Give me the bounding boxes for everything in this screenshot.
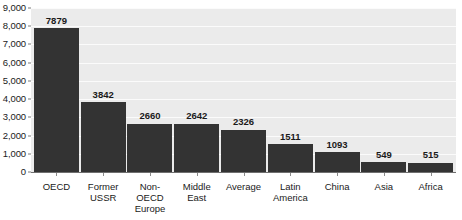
bar-slot: 1511 [267, 8, 314, 172]
y-axis-tick-label: 8,000 [3, 21, 26, 31]
x-axis-tick-label: Average [220, 181, 267, 192]
bar[interactable] [408, 163, 453, 172]
x-axis-category: Average [220, 173, 267, 220]
bar-slot: 7879 [33, 8, 80, 172]
x-axis-tick-mark [150, 173, 151, 176]
bar-slot: 549 [360, 8, 407, 172]
bar-value-label: 515 [423, 150, 439, 160]
bar-slot: 1093 [314, 8, 361, 172]
x-axis-tick-mark [197, 173, 198, 176]
x-axis-tick-mark [103, 173, 104, 176]
y-axis-tick-label: 6,000 [3, 58, 26, 68]
x-axis-tick-label: Non-OECD Europe [127, 181, 174, 214]
y-axis-tick-label: 4,000 [3, 94, 26, 104]
y-axis-tick-label: 0 [21, 167, 26, 177]
bar-value-label: 2326 [233, 117, 254, 127]
y-axis-tick-label: 7,000 [3, 40, 26, 50]
x-axis-tick-label: Former USSR [80, 181, 127, 203]
bar[interactable] [221, 130, 266, 172]
bar[interactable] [81, 102, 126, 172]
x-axis-tick-mark [56, 173, 57, 176]
x-axis-tick-mark [244, 173, 245, 176]
bar[interactable] [127, 124, 172, 172]
bar[interactable] [361, 162, 406, 172]
x-axis-category: Middle East [173, 173, 220, 220]
x-axis-tick-label: China [314, 181, 361, 192]
x-axis: OECDFormer USSRNon-OECD EuropeMiddle Eas… [31, 173, 456, 220]
x-axis-category: Former USSR [80, 173, 127, 220]
bar-slot: 515 [407, 8, 454, 172]
bar[interactable] [34, 28, 79, 172]
bar[interactable] [268, 144, 313, 172]
bar-value-label: 2642 [186, 111, 207, 121]
bar[interactable] [315, 152, 360, 172]
bar-slot: 2326 [220, 8, 267, 172]
y-axis-tick-label: 2,000 [3, 131, 26, 141]
bar-slot: 3842 [80, 8, 127, 172]
x-axis-category: Latin America [267, 173, 314, 220]
x-axis-category: Africa [407, 173, 454, 220]
y-axis-tick-label: 5,000 [3, 76, 26, 86]
bar-value-label: 549 [376, 150, 392, 160]
y-axis-tick-label: 1,000 [3, 149, 26, 159]
x-axis-tick-label: Asia [360, 181, 407, 192]
x-axis-tick-mark [290, 173, 291, 176]
bar-slot: 2642 [173, 8, 220, 172]
bars-layer: 7879384226602642232615111093549515 [31, 8, 456, 172]
x-axis-tick-mark [431, 173, 432, 176]
bar[interactable] [174, 124, 219, 172]
x-axis-tick-label: Latin America [267, 181, 314, 203]
bar-value-label: 1093 [327, 140, 348, 150]
x-axis-tick-label: Africa [407, 181, 454, 192]
x-axis-category: OECD [33, 173, 80, 220]
y-axis-tick-label: 3,000 [3, 113, 26, 123]
x-axis-tick-label: Middle East [173, 181, 220, 203]
bar-value-label: 7879 [46, 16, 67, 26]
x-axis-category: China [314, 173, 361, 220]
bar-value-label: 2660 [139, 111, 160, 121]
bar-slot: 2660 [127, 8, 174, 172]
bar-value-label: 3842 [93, 90, 114, 100]
bar-chart: 9,0008,0007,0006,0005,0004,0003,0002,000… [0, 0, 462, 220]
x-axis-category: Asia [360, 173, 407, 220]
x-axis-tick-label: OECD [33, 181, 80, 192]
y-axis-tick-label: 9,000 [3, 3, 26, 13]
x-axis-tick-mark [384, 173, 385, 176]
bar-value-label: 1511 [280, 132, 301, 142]
x-axis-category: Non-OECD Europe [127, 173, 174, 220]
y-axis: 9,0008,0007,0006,0005,0004,0003,0002,000… [0, 8, 31, 172]
x-axis-tick-mark [337, 173, 338, 176]
